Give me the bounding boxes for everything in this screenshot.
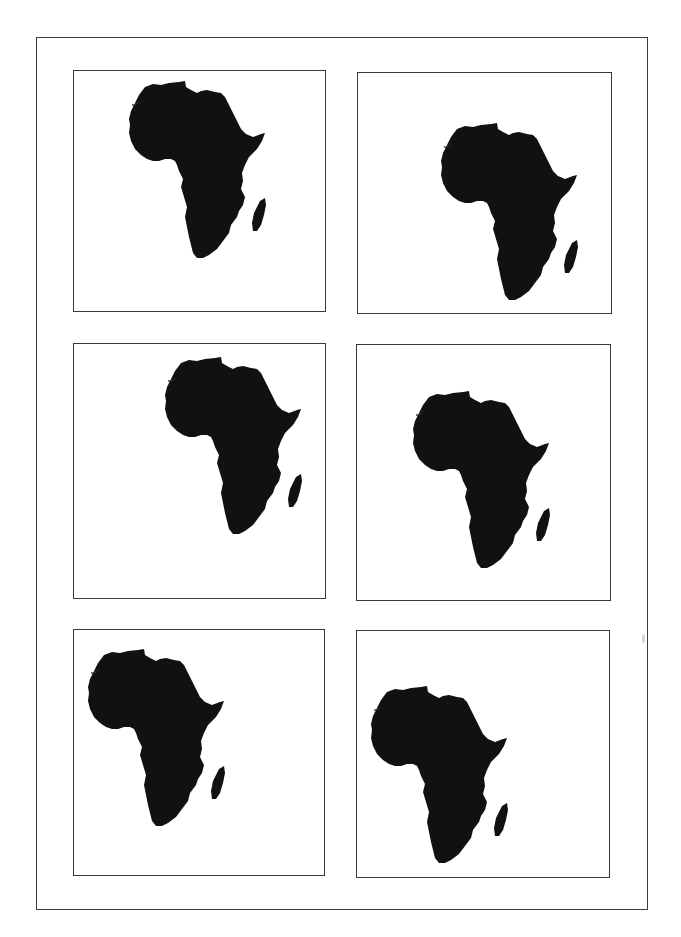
- africa-map-5: [88, 649, 228, 831]
- scan-smudge: [642, 634, 645, 643]
- africa-map-3: [165, 357, 305, 539]
- africa-map-1: [129, 81, 269, 263]
- africa-map-4: [413, 391, 553, 573]
- africa-map-6: [371, 686, 511, 868]
- africa-map-2: [441, 123, 581, 305]
